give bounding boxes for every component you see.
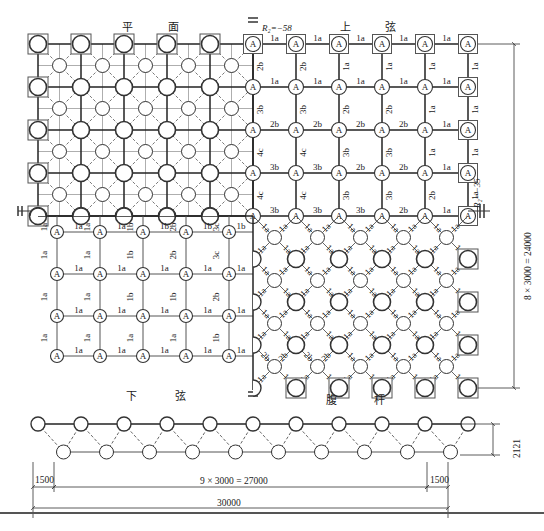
reaction-top: R₂=−58	[261, 23, 292, 33]
lower-node	[53, 188, 67, 202]
lower-vertical-label: 1a	[39, 251, 49, 260]
node-a-label: A	[293, 125, 300, 135]
elev-upper-node	[332, 417, 346, 431]
upper-horizontal-label: 1a	[313, 33, 322, 43]
span-inner-dimension: 9 × 3000 = 27000	[200, 476, 268, 486]
web-members-view: 1a1a1a1a1a1a1a1a1a1a1a1a2b2b1a1a1a1a1a1a…	[253, 216, 478, 398]
upper-vertical-label: 3b	[298, 105, 308, 115]
lower-horizontal-label: 1b	[203, 221, 213, 231]
lower-top-vertical-label: 1b	[125, 222, 135, 232]
elev-lower-node	[57, 445, 71, 459]
node-a-label: A	[465, 125, 472, 135]
lower-node	[139, 59, 153, 73]
edge-left-dimension: 1500	[35, 475, 54, 485]
lower-horizontal-label: 1a	[74, 263, 83, 273]
plan-title-2: 面	[168, 21, 179, 34]
upper-node	[460, 380, 477, 397]
lower-node	[311, 274, 325, 288]
node-a-label: A	[379, 125, 386, 135]
lower-node	[53, 102, 67, 116]
elev-upper-node	[160, 417, 174, 431]
lower-node	[268, 231, 282, 245]
upper-horizontal-label: 2b	[313, 119, 323, 129]
node-a-label: A	[250, 125, 257, 135]
upper-node	[331, 251, 348, 268]
node-a-label: A	[422, 125, 429, 135]
node-a-label: A	[97, 351, 104, 361]
node-a-label: A	[226, 311, 233, 321]
node-a-label: A	[293, 39, 300, 49]
node-a-label: A	[465, 168, 472, 178]
upper-node	[116, 122, 133, 139]
upper-node	[30, 122, 47, 139]
upper-node	[159, 122, 176, 139]
lower-horizontal-label: 1a	[117, 345, 126, 355]
lower-node	[440, 360, 454, 374]
node-a-label: A	[140, 351, 147, 361]
upper-horizontal-label: 1a	[356, 76, 365, 86]
upper-node	[73, 79, 90, 96]
upper-vertical-label: 1a	[427, 105, 437, 114]
node-a-label: A	[422, 168, 429, 178]
node-a-label: A	[183, 227, 190, 237]
lower-horizontal-label: 1a	[203, 263, 212, 273]
lower-vertical-label: 1a	[39, 293, 49, 302]
lower-vertical-label: 1a	[39, 334, 49, 343]
upper-node	[116, 36, 133, 53]
upper-vertical-label: 2b	[298, 62, 308, 72]
upper-node	[374, 337, 391, 354]
lower-node	[225, 188, 239, 202]
node-a-label: A	[336, 39, 343, 49]
node-a-label: A	[97, 269, 104, 279]
lower-vertical-label: 1b	[125, 250, 135, 260]
upper-vertical-label: 1a	[470, 148, 480, 157]
upper-node	[73, 122, 90, 139]
upper-vertical-label: 2b	[341, 105, 351, 115]
upper-horizontal-label: 2b	[356, 119, 366, 129]
node-a-label: A	[336, 82, 343, 92]
lower-node	[397, 360, 411, 374]
lower-node	[182, 145, 196, 159]
lower-horizontal-label: 1a	[160, 263, 169, 273]
node-a-label: A	[250, 82, 257, 92]
node-a-label: A	[379, 82, 386, 92]
node-a-label: A	[97, 227, 104, 237]
upper-horizontal-label: 2b	[356, 162, 366, 172]
upper-vertical-label: 4c	[255, 148, 265, 157]
upper-node	[30, 79, 47, 96]
lower-node	[182, 59, 196, 73]
upper-vertical-label: 1a	[470, 62, 480, 71]
lower-vertical-label: 1a	[125, 334, 135, 343]
upper-vertical-label: 1a	[427, 62, 437, 71]
upper-vertical-label: 1a	[427, 148, 437, 157]
upper-title-1: 上	[340, 21, 351, 34]
lower-chord-view: 1a1a1b2b3c1a1a1b1b1b1a1a1a1a1a1a1a1a1a1a…	[30, 208, 258, 396]
lower-node	[182, 102, 196, 116]
node-a-label: A	[183, 351, 190, 361]
upper-horizontal-label: 1a	[442, 33, 451, 43]
elevation-view	[31, 417, 475, 459]
lower-vertical-label: 2b	[211, 292, 221, 302]
upper-vertical-label: 1a	[341, 62, 351, 71]
upper-vertical-label: 1a	[384, 62, 394, 71]
lower-node	[268, 360, 282, 374]
node-a-label: A	[226, 351, 233, 361]
node-a-label: A	[465, 211, 472, 221]
node-a-label: A	[379, 168, 386, 178]
plan-view	[18, 18, 258, 226]
lower-horizontal-label: 1b	[160, 221, 170, 231]
upper-horizontal-label: 1a	[399, 33, 408, 43]
upper-node	[417, 337, 434, 354]
upper-node	[417, 294, 434, 311]
upper-horizontal-label: 3b	[313, 162, 323, 172]
node-a-label: A	[140, 227, 147, 237]
upper-node	[159, 79, 176, 96]
lower-horizontal-label: 1a	[117, 263, 126, 273]
upper-vertical-label: 4c	[255, 191, 265, 200]
upper-node	[288, 251, 305, 268]
upper-node	[417, 380, 434, 397]
lower-node	[96, 102, 110, 116]
upper-node	[460, 294, 477, 311]
elev-lower-node	[186, 445, 200, 459]
upper-node	[30, 36, 47, 53]
